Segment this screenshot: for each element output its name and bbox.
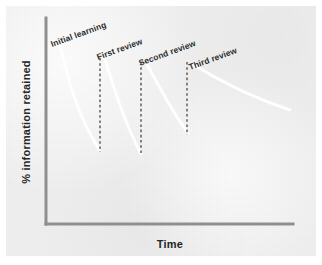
x-axis-title: Time xyxy=(157,238,183,250)
curve-labels-group: Initial learning First review Second rev… xyxy=(49,20,238,72)
decay-curves-group xyxy=(60,45,290,154)
label-third-review: Third review xyxy=(187,45,238,72)
decay-curve-initial-learning xyxy=(60,45,100,151)
label-initial-learning: Initial learning xyxy=(49,20,107,49)
curve-glow-initial-learning xyxy=(60,45,100,151)
y-axis-title: % information retained xyxy=(20,60,32,184)
forgetting-curve-figure: Initial learning First review Second rev… xyxy=(0,0,322,265)
curve-glow-third-review xyxy=(192,64,290,110)
chart-canvas: Initial learning First review Second rev… xyxy=(0,0,322,265)
review-marker-group xyxy=(100,58,187,155)
